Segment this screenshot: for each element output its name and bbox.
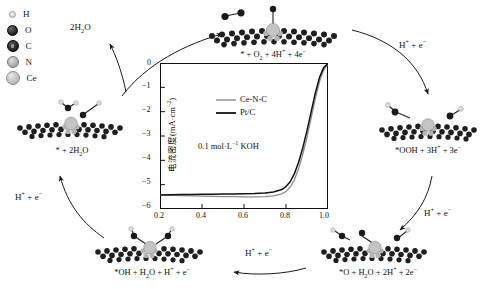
structure-clean-site: * + 2H2O	[10, 98, 134, 155]
axis-ticks	[160, 64, 328, 210]
ytick-m6: −6	[142, 201, 151, 210]
xtick-10: 1.0	[319, 211, 329, 220]
xtick-04: 0.4	[196, 211, 206, 220]
molecular-model-right	[372, 98, 484, 144]
curve-group	[160, 63, 328, 196]
curve-ce-n-c	[160, 64, 328, 197]
arrow-label-h-plus-e-topright: H+ + e−	[399, 40, 426, 50]
molecular-model-left	[10, 98, 134, 144]
arrow-left-to-2h2o	[110, 44, 126, 92]
orr-mechanism-figure: H O C N Ce	[0, 0, 486, 289]
arrow-label-h-plus-e-left: H+ + e−	[15, 192, 42, 202]
ytick-0: 0	[147, 58, 151, 67]
molecular-model-bottomright	[312, 222, 444, 266]
arrow-label-h-plus-e-right: H+ + e−	[424, 208, 451, 218]
electrolyte-annotation: 0.1 mol·L−1 KOH	[198, 141, 259, 151]
ytick-m3: −3	[142, 129, 151, 138]
arrow-label-2h2o: 2H2O	[70, 22, 91, 32]
structure-caption-right: *OOH + 3H+ + 3e−	[372, 145, 484, 155]
structure-caption-bottomleft: *OH + H2O + H+ + e−	[84, 267, 220, 277]
structure-caption-bottomright: *O + H2O + 2H+ + 2e−	[312, 267, 444, 277]
ytick-m2: −2	[142, 105, 151, 114]
xtick-08: 0.8	[280, 211, 290, 220]
plot-canvas	[160, 63, 328, 209]
structure-o2-adsorption: * + O2 + 4H+ + 4e−	[198, 2, 348, 59]
arrow-label-h-plus-e-bottom: H+ + e−	[245, 248, 272, 258]
xtick-06: 0.6	[238, 211, 248, 220]
ytick-m5: −5	[142, 177, 151, 186]
lsv-polarization-chart: 0 −1 −2 −3 −4 −5 −6 0.2 0.4 0.6 0.8 1.0 …	[160, 63, 328, 209]
ytick-m4: −4	[142, 153, 151, 162]
molecular-model-bottomleft	[84, 222, 220, 266]
legend-label-ce-n-c: Ce-N-C	[240, 94, 267, 104]
xtick-02: 0.2	[154, 211, 164, 220]
arrow-bottomright-to-bottomleft	[234, 268, 306, 274]
structure-o-h2o: *O + H2O + 2H+ + 2e−	[312, 222, 444, 277]
legend-label-pt-c: Pt/C	[240, 107, 255, 117]
structure-ooh: *OOH + 3H+ + 3e−	[372, 98, 484, 155]
molecular-model-top	[198, 2, 348, 48]
structure-caption-left: * + 2H2O	[10, 145, 134, 155]
ytick-m1: −1	[142, 81, 151, 90]
structure-caption-top: * + O2 + 4H+ + 4e−	[198, 49, 348, 59]
curve-pt-c	[160, 63, 328, 194]
structure-oh-h2o: *OH + H2O + H+ + e−	[84, 222, 220, 277]
y-axis-title: 电流密度(mA·cm−2)	[165, 72, 177, 198]
